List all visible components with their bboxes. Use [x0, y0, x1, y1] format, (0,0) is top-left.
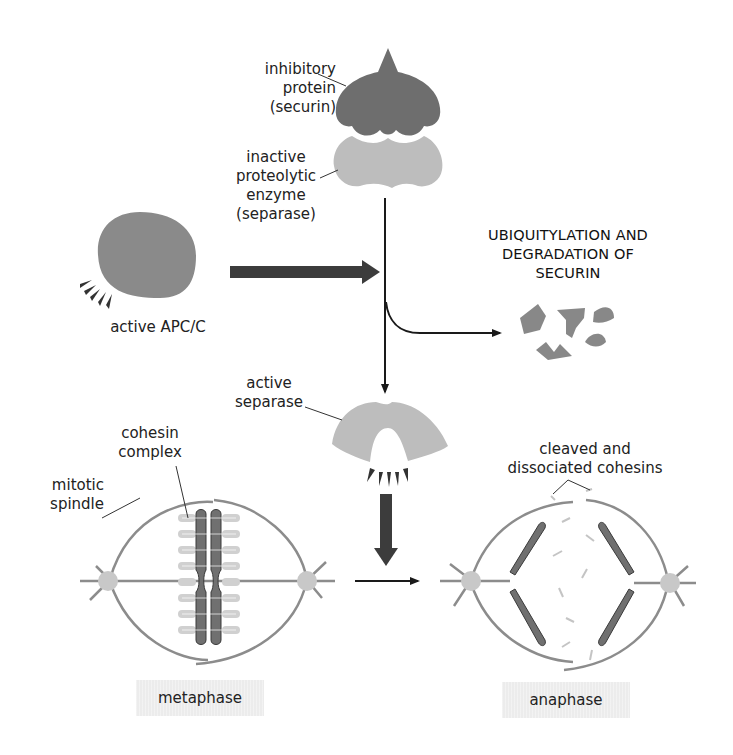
spindle-label-line: mitotic: [20, 476, 104, 495]
anaphase-pole-left: [461, 571, 481, 591]
apc-label: active APC/C: [98, 318, 218, 337]
cohesin-label: cohesin complex: [100, 424, 200, 462]
cohesin-label-line: complex: [100, 443, 200, 462]
active-separase-label-line: active: [224, 374, 314, 393]
inactive-separase-label-line: enzyme: [226, 186, 326, 205]
active-separase-shape: [332, 402, 448, 487]
degradation-label: UBIQUITYLATION AND DEGRADATION OF SECURI…: [448, 226, 688, 283]
metaphase-spindle: [80, 500, 335, 664]
separase-action-arrow: [374, 494, 398, 566]
spindle-leader-line: [102, 498, 140, 518]
spindle-label-line: spindle: [20, 495, 104, 514]
securin-label-line: inhibitory: [236, 60, 336, 79]
inactive-separase-label-line: proteolytic: [226, 167, 326, 186]
cohesin-complexes: [178, 514, 240, 634]
anaphase-stage-label: anaphase: [502, 682, 630, 718]
separase-activation-spikes-icon: [367, 468, 408, 487]
anaphase-chromosomes: [510, 522, 634, 645]
securin-fragments: [520, 304, 614, 360]
cleaved-cohesins-leader-line: [553, 480, 590, 494]
metaphase-pole-left: [98, 571, 118, 591]
cleaved-cohesins-label: cleaved and dissociated cohesins: [490, 440, 680, 478]
securin-shape: [336, 48, 441, 136]
inactive-separase-label-line: (separase): [226, 205, 326, 224]
inactive-separase-label: inactive proteolytic enzyme (separase): [226, 148, 326, 224]
degradation-label-line: SECURIN: [448, 264, 688, 283]
inactive-separase-label-line: inactive: [226, 148, 326, 167]
cohesin-leader-line: [176, 466, 188, 518]
metaphase-stage-label: metaphase: [136, 680, 264, 716]
securin-label-line: protein: [236, 79, 336, 98]
apc-activation-spikes-icon: [80, 280, 112, 309]
anaphase-pole-right: [660, 573, 680, 593]
cleaved-cohesin-fragments: [551, 489, 594, 660]
active-separase-label-line: separase: [224, 393, 314, 412]
apc-shape: [80, 212, 196, 309]
cohesin-label-line: cohesin: [100, 424, 200, 443]
degradation-label-line: UBIQUITYLATION AND: [448, 226, 688, 245]
securin-label: inhibitory protein (securin): [236, 60, 336, 117]
cleaved-cohesins-label-line: cleaved and: [490, 440, 680, 459]
cleaved-cohesins-label-line: dissociated cohesins: [490, 459, 680, 478]
spindle-label: mitotic spindle: [20, 476, 104, 514]
securin-label-line: (securin): [236, 98, 336, 117]
metaphase-pole-right: [297, 571, 317, 591]
diagram-canvas: [0, 0, 733, 755]
metaphase-chromosome: [196, 510, 221, 645]
degradation-label-line: DEGRADATION OF: [448, 245, 688, 264]
inactive-separase-shape: [334, 136, 443, 188]
degradation-arrow: [386, 302, 500, 333]
apc-to-separase-arrow: [230, 260, 380, 284]
active-separase-label: active separase: [224, 374, 314, 412]
